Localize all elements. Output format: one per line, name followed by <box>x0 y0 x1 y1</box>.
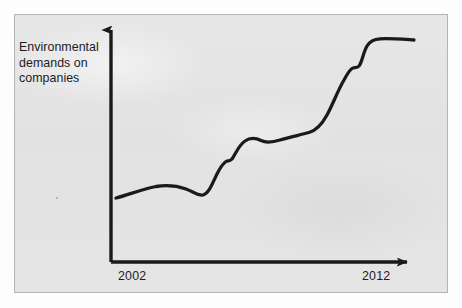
x-axis-tick-label-2012: 2012 <box>362 269 390 283</box>
y-axis-label-line-2: demands on <box>19 56 115 72</box>
y-axis-label-line-3: companies <box>19 71 115 87</box>
x-axis-tick-label-2002: 2002 <box>118 269 146 283</box>
figure-root: Environmental demands on companies 2002 … <box>0 0 462 308</box>
trend-line-series <box>116 39 414 198</box>
y-axis-label: Environmental demands on companies <box>19 40 115 87</box>
y-axis-label-line-1: Environmental <box>19 40 115 56</box>
